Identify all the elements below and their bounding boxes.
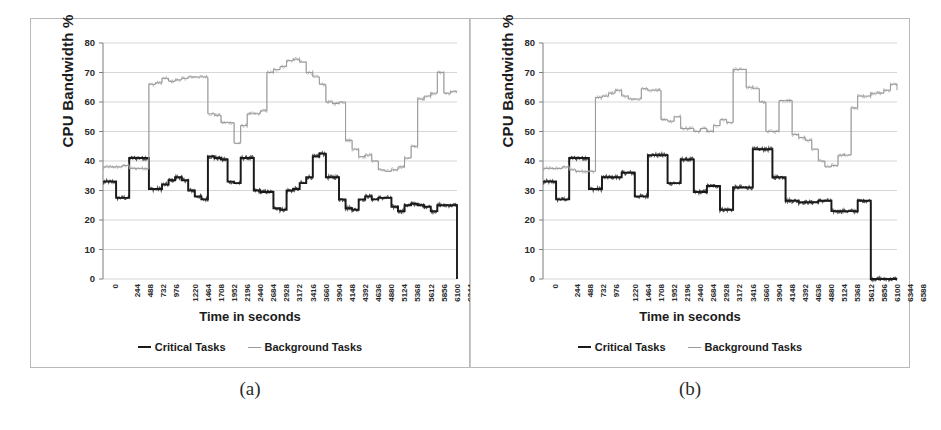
x-tick-label: 4880 — [827, 284, 836, 302]
x-tick-label: 0 — [551, 284, 560, 288]
x-axis-label-a: Time in seconds — [31, 309, 469, 324]
legend-label-critical-b: Critical Tasks — [595, 341, 666, 353]
x-tick-label: 2440 — [256, 284, 265, 302]
x-tick-label: 2196 — [243, 284, 252, 302]
y-tick-label: 60 — [507, 96, 535, 107]
x-tick-label: 2928 — [282, 284, 291, 302]
x-tick-label: 3660 — [761, 284, 770, 302]
series-line-critical-tasks — [543, 149, 897, 279]
subfigure-caption-b: (b) — [600, 378, 780, 400]
legend-a: Critical Tasks Background Tasks — [31, 341, 469, 353]
x-tick-label: 4880 — [387, 284, 396, 302]
x-tick-label: 244 — [133, 284, 142, 297]
legend-item-background-tasks-b: Background Tasks — [688, 341, 803, 353]
x-tick-label: 3416 — [748, 284, 757, 302]
y-tick-label: 30 — [507, 185, 535, 196]
y-tick-label: 30 — [67, 185, 95, 196]
x-tick-label: 1464 — [203, 284, 212, 302]
x-tick-label: 4148 — [348, 284, 357, 302]
chart-panel-a: CPU Bandwidth % Time in seconds Critical… — [30, 18, 470, 368]
series-line-background-tasks — [543, 70, 897, 172]
x-tick-label: 1708 — [217, 284, 226, 302]
legend-item-background-tasks-a: Background Tasks — [248, 341, 363, 353]
legend-item-critical-tasks-a: Critical Tasks — [138, 341, 226, 353]
figure-container: CPU Bandwidth % Time in seconds Critical… — [0, 0, 941, 430]
y-tick-label: 50 — [507, 126, 535, 137]
x-tick-label: 5612 — [866, 284, 875, 302]
x-tick-label: 2196 — [683, 284, 692, 302]
x-tick-label: 5856 — [439, 284, 448, 302]
x-tick-label: 6344 — [906, 284, 915, 302]
y-tick-label: 60 — [67, 96, 95, 107]
x-tick-label: 2684 — [269, 284, 278, 302]
x-tick-label: 4148 — [788, 284, 797, 302]
x-tick-label: 3660 — [321, 284, 330, 302]
y-tick-label: 0 — [67, 273, 95, 284]
x-axis-label-b: Time in seconds — [471, 309, 909, 324]
legend-line-icon-background-b — [688, 347, 701, 348]
x-tick-label: 3416 — [308, 284, 317, 302]
x-tick-label: 1708 — [657, 284, 666, 302]
x-tick-label: 5612 — [426, 284, 435, 302]
y-tick-label: 80 — [507, 37, 535, 48]
x-tick-label: 2440 — [696, 284, 705, 302]
x-tick-label: 4636 — [814, 284, 823, 302]
subfigure-caption-a: (a) — [160, 378, 340, 400]
y-tick-label: 10 — [67, 244, 95, 255]
y-tick-label: 70 — [67, 67, 95, 78]
chart-panel-b: CPU Bandwidth % Time in seconds Critical… — [470, 18, 910, 368]
series-line-background-tasks — [103, 59, 457, 171]
x-tick-label: 1464 — [643, 284, 652, 302]
x-tick-label: 4392 — [361, 284, 370, 302]
x-tick-label: 3904 — [775, 284, 784, 302]
x-tick-label: 2684 — [709, 284, 718, 302]
x-tick-label: 976 — [173, 284, 182, 297]
x-tick-label: 1220 — [190, 284, 199, 302]
legend-label-background-b: Background Tasks — [705, 341, 803, 353]
x-tick-label: 5368 — [413, 284, 422, 302]
x-tick-label: 5856 — [879, 284, 888, 302]
y-tick-label: 80 — [67, 37, 95, 48]
y-tick-label: 20 — [507, 214, 535, 225]
legend-item-critical-tasks-b: Critical Tasks — [578, 341, 666, 353]
y-tick-label: 70 — [507, 67, 535, 78]
x-tick-label: 976 — [613, 284, 622, 297]
x-tick-label: 244 — [573, 284, 582, 297]
x-tick-label: 0 — [111, 284, 120, 288]
y-tick-label: 50 — [67, 126, 95, 137]
x-tick-label: 2928 — [722, 284, 731, 302]
x-tick-label: 1220 — [630, 284, 639, 302]
x-tick-label: 6588 — [919, 284, 928, 302]
y-tick-label: 0 — [507, 273, 535, 284]
series-noise-background-tasks — [103, 57, 457, 172]
y-tick-label: 10 — [507, 244, 535, 255]
x-tick-label: 488 — [587, 284, 596, 297]
legend-line-icon-critical-b — [578, 346, 591, 348]
x-tick-label: 3172 — [295, 284, 304, 302]
y-tick-label: 40 — [507, 155, 535, 166]
legend-line-icon-background-a — [248, 347, 261, 348]
legend-label-background-a: Background Tasks — [265, 341, 363, 353]
y-tick-label: 20 — [67, 214, 95, 225]
x-tick-label: 1952 — [230, 284, 239, 302]
x-tick-label: 4636 — [374, 284, 383, 302]
series-noise-critical-tasks — [543, 147, 897, 281]
x-tick-label: 5368 — [853, 284, 862, 302]
legend-label-critical-a: Critical Tasks — [155, 341, 226, 353]
x-tick-label: 5124 — [400, 284, 409, 302]
x-tick-label: 732 — [600, 284, 609, 297]
x-tick-label: 3904 — [335, 284, 344, 302]
series-line-critical-tasks — [103, 154, 457, 279]
x-tick-label: 5124 — [840, 284, 849, 302]
x-tick-label: 1952 — [670, 284, 679, 302]
x-tick-label: 6100 — [893, 284, 902, 302]
x-tick-label: 488 — [147, 284, 156, 297]
legend-line-icon-critical-a — [138, 346, 151, 348]
x-tick-label: 732 — [160, 284, 169, 297]
x-tick-label: 4392 — [801, 284, 810, 302]
legend-b: Critical Tasks Background Tasks — [471, 341, 909, 353]
y-tick-label: 40 — [67, 155, 95, 166]
x-tick-label: 6100 — [453, 284, 462, 302]
x-tick-label: 3172 — [735, 284, 744, 302]
